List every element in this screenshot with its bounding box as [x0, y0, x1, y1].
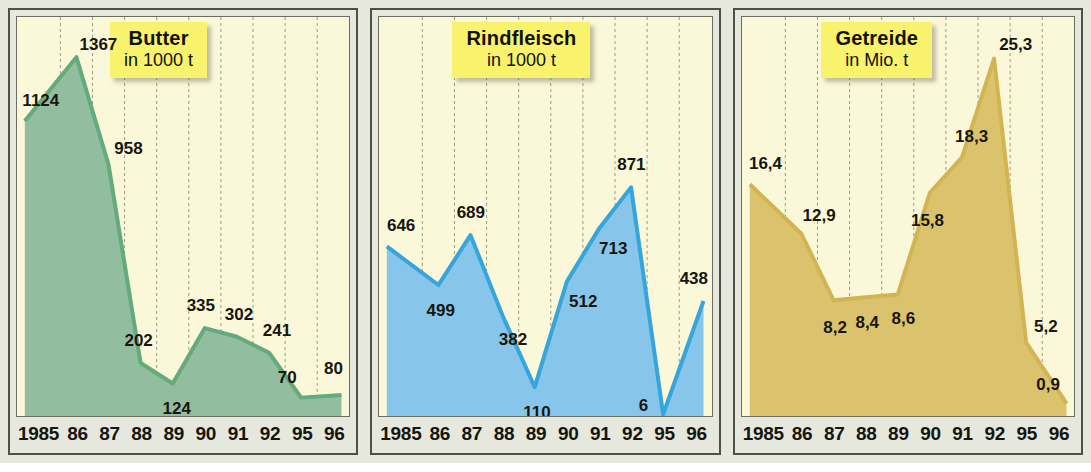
chart-panel-butter: Butter in 1000 t 11241367958202124335302… — [8, 8, 358, 455]
x-axis-tick: 89 — [882, 423, 914, 445]
x-axis-tick: 95 — [286, 423, 318, 445]
x-axis-tick: 90 — [190, 423, 222, 445]
chart-subtitle-getreide: in Mio. t — [835, 50, 918, 70]
x-axis-tick: 1985 — [16, 423, 61, 445]
x-axis-tick: 88 — [850, 423, 882, 445]
x-axis-rindfleisch: 1985868788899091929596 — [378, 419, 712, 449]
chart-title-box-getreide: Getreide in Mio. t — [821, 22, 932, 78]
x-axis-tick: 92 — [616, 423, 648, 445]
x-axis-tick: 87 — [456, 423, 488, 445]
x-axis-tick: 89 — [520, 423, 552, 445]
chart-panel-getreide: Getreide in Mio. t 16,412,98,28,48,615,8… — [733, 8, 1083, 455]
panel-row: Butter in 1000 t 11241367958202124335302… — [8, 8, 1083, 455]
x-axis-tick: 96 — [318, 423, 350, 445]
x-axis-tick: 92 — [979, 423, 1011, 445]
x-axis-tick: 86 — [61, 423, 93, 445]
x-axis-tick: 87 — [818, 423, 850, 445]
chart-title-butter: Butter — [124, 27, 193, 49]
x-axis-tick: 89 — [158, 423, 190, 445]
x-axis-tick: 90 — [552, 423, 584, 445]
x-axis-tick: 1985 — [378, 423, 423, 445]
x-axis-tick: 90 — [914, 423, 946, 445]
x-axis-tick: 87 — [93, 423, 125, 445]
x-axis-tick: 92 — [254, 423, 286, 445]
chart-title-box-rindfleisch: Rindfleisch in 1000 t — [452, 22, 590, 78]
x-axis-tick: 1985 — [741, 423, 786, 445]
area-fill — [387, 187, 704, 416]
x-axis-butter: 1985868788899091929596 — [16, 419, 350, 449]
x-axis-tick: 91 — [947, 423, 979, 445]
plot-area-getreide: Getreide in Mio. t 16,412,98,28,48,615,8… — [741, 16, 1075, 417]
x-axis-tick: 95 — [1011, 423, 1043, 445]
plot-area-rindfleisch: Rindfleisch in 1000 t 646499689382110512… — [378, 16, 712, 417]
x-axis-tick: 96 — [1043, 423, 1075, 445]
chart-title-rindfleisch: Rindfleisch — [466, 27, 576, 49]
x-axis-tick: 91 — [222, 423, 254, 445]
plot-area-butter: Butter in 1000 t 11241367958202124335302… — [16, 16, 350, 417]
x-axis-tick: 86 — [424, 423, 456, 445]
x-axis-getreide: 1985868788899091929596 — [741, 419, 1075, 449]
x-axis-tick: 95 — [648, 423, 680, 445]
x-axis-tick: 91 — [584, 423, 616, 445]
x-axis-tick: 88 — [126, 423, 158, 445]
chart-panel-rindfleisch: Rindfleisch in 1000 t 646499689382110512… — [370, 8, 720, 455]
chart-title-box-butter: Butter in 1000 t — [110, 22, 207, 78]
chart-screenshot: Butter in 1000 t 11241367958202124335302… — [0, 0, 1091, 472]
chart-title-getreide: Getreide — [835, 27, 918, 49]
figure-frame: Butter in 1000 t 11241367958202124335302… — [0, 0, 1091, 463]
chart-subtitle-rindfleisch: in 1000 t — [466, 50, 576, 70]
x-axis-tick: 86 — [786, 423, 818, 445]
x-axis-tick: 96 — [681, 423, 713, 445]
area-fill — [749, 59, 1066, 416]
x-axis-tick: 88 — [488, 423, 520, 445]
chart-subtitle-butter: in 1000 t — [124, 50, 193, 70]
